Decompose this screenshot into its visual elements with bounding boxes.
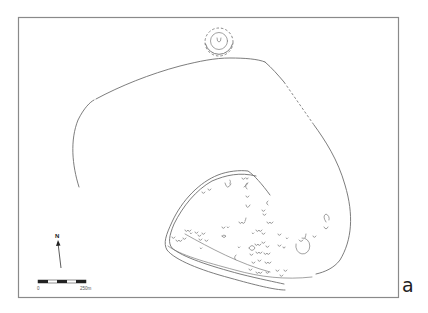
inner-fortified-enclosure — [165, 171, 312, 290]
scale-start-label: 0 — [37, 286, 40, 291]
pit-features — [172, 178, 329, 277]
scale-bar: 0 250m — [37, 280, 92, 291]
north-arrow-icon — [58, 243, 61, 268]
scale-end-label: 250m — [80, 286, 92, 291]
hilltop-mound — [205, 28, 233, 56]
site-plan-figure: N 0 250m — [0, 0, 428, 313]
north-arrow: N — [55, 233, 61, 268]
north-label: N — [55, 233, 59, 239]
north-arrowhead-icon — [56, 240, 61, 246]
panel-label: a — [402, 276, 414, 295]
figure-frame — [19, 18, 399, 298]
